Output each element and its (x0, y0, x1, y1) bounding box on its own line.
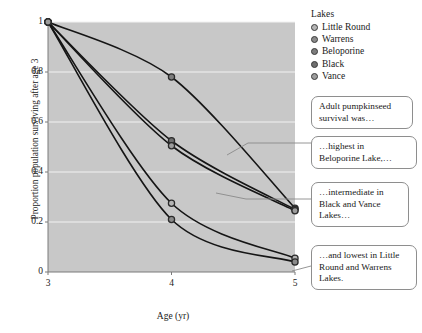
x-tick-label: 3 (38, 278, 58, 288)
data-point-marker[interactable] (168, 74, 174, 80)
legend-marker-little-round (311, 24, 318, 31)
data-point-marker[interactable] (45, 19, 51, 25)
legend-item-beloporine[interactable]: Beloporine (311, 46, 419, 58)
legend-marker-black (311, 61, 318, 68)
x-axis-title: Age (yr) (118, 311, 228, 321)
callout-0-line-0: Adult pumpkinseed (319, 101, 406, 113)
legend-item-vance[interactable]: Vance (311, 71, 419, 83)
callout-0-line-1: survival was… (319, 113, 406, 125)
legend-item-black[interactable]: Black (311, 58, 419, 70)
callout-1-line-1: Beloporine Lake,… (319, 153, 410, 165)
callout-3-line-0: …and lowest in Little (319, 250, 410, 262)
callout-2-line-1: Black and Vance (319, 199, 402, 211)
data-point-marker[interactable] (168, 143, 174, 149)
legend: Lakes Little Round Warrens Beloporine Bl… (311, 8, 419, 83)
data-point-marker[interactable] (292, 259, 298, 265)
data-point-marker[interactable] (168, 200, 174, 206)
y-tick-label: 1 (0, 16, 43, 26)
legend-label-black: Black (322, 59, 344, 70)
y-tick-label: 0.6 (0, 116, 43, 126)
legend-marker-beloporine (311, 48, 318, 55)
callout-3-line-2: Lakes. (319, 273, 410, 285)
legend-marker-vance (311, 73, 318, 80)
x-tick-label: 5 (285, 278, 305, 288)
callout-2-line-0: …intermediate in (319, 187, 402, 199)
y-tick-label: 0.8 (0, 66, 43, 76)
callout-3-line-1: Round and Warrens (319, 262, 410, 274)
callout-adult-survival: Adult pumpkinseed survival was… (311, 96, 413, 129)
callout-highest-beloporine: …highest in Beloporine Lake,… (311, 136, 417, 169)
callout-intermediate-black-vance: …intermediate in Black and Vance Lakes… (311, 182, 409, 227)
y-tick-label: 0 (0, 266, 43, 276)
legend-item-warrens[interactable]: Warrens (311, 33, 419, 45)
y-tick-label: 0.4 (0, 166, 43, 176)
y-tick-label: 0.2 (0, 216, 43, 226)
legend-label-warrens: Warrens (322, 34, 353, 45)
x-tick-label: 4 (162, 278, 182, 288)
data-point-marker[interactable] (292, 208, 298, 214)
legend-marker-warrens (311, 36, 318, 43)
callout-1-line-0: …highest in (319, 141, 410, 153)
data-point-marker[interactable] (168, 216, 174, 222)
callout-2-line-2: Lakes… (319, 210, 402, 222)
legend-item-little-round[interactable]: Little Round (311, 21, 419, 33)
legend-label-vance: Vance (322, 71, 345, 82)
callout-lowest-little-round-warrens: …and lowest in Little Round and Warrens … (311, 245, 417, 290)
legend-label-beloporine: Beloporine (322, 46, 364, 57)
chart-figure: Proportion population surviving after ag… (0, 0, 422, 333)
legend-title: Lakes (311, 8, 419, 20)
legend-label-little-round: Little Round (322, 22, 370, 33)
